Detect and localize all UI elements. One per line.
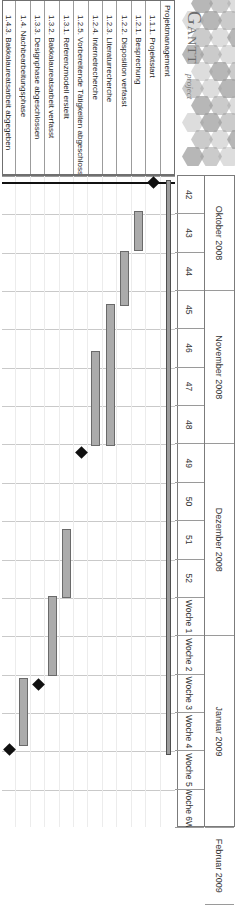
task-bar[interactable] <box>48 596 57 677</box>
task-name-label: 1.4. Nachbearbeitungsphase <box>19 1 28 117</box>
timeline-week-48: 48 <box>175 406 204 444</box>
task-name-label: Projektmanagement <box>163 1 172 77</box>
timeline-week-52: 52 <box>175 560 204 598</box>
task-name-label: 1.3.2. Bakkalaureatsarbeit verfasst <box>47 1 56 138</box>
grid-line-vertical <box>2 751 175 752</box>
task-bar[interactable] <box>19 678 28 745</box>
grid-line-vertical <box>2 790 175 791</box>
grid-line-horizontal <box>59 176 60 827</box>
summary-bar[interactable] <box>166 180 171 755</box>
table-row[interactable]: 1.1.1. Projektstart <box>145 1 159 174</box>
timeline-week-woche-5: Woche 5 <box>175 751 204 789</box>
task-bar[interactable] <box>134 211 143 251</box>
table-row[interactable]: Projektmanagement <box>160 1 174 174</box>
task-bar[interactable] <box>91 351 100 447</box>
task-name-label: 1.1.1. Projektstart <box>148 1 157 78</box>
timeline-header: Oktober 2008November 2008Dezember 2008Ja… <box>177 175 235 827</box>
table-row[interactable]: 1.3.2. Bakkalaureatsarbeit verfasst <box>44 1 58 174</box>
grid-line-vertical <box>2 483 175 484</box>
timeline-week-46: 46 <box>175 329 204 367</box>
task-name-label: 1.3.3. Designphase abgeschlossen <box>33 1 42 140</box>
grid-line-horizontal <box>145 176 146 827</box>
task-name-label: 1.2.4. Internetrecherche <box>91 1 100 100</box>
timeline-week-50: 50 <box>175 483 204 521</box>
task-name-label: 1.2.3. Literaturrecherche <box>105 1 114 102</box>
timeline-week-woche-4: Woche 4 <box>175 713 204 751</box>
grid-line-horizontal <box>160 176 161 827</box>
logo-wordmark: Gantt <box>183 11 205 64</box>
timeline-week-49: 49 <box>175 444 204 482</box>
grid-line-vertical <box>2 291 175 292</box>
timeline-week-43: 43 <box>175 214 204 252</box>
table-row[interactable]: 1.4.3. Bakkalaureatsarbeit abgegeben <box>1 1 15 174</box>
table-row[interactable]: 1.2.4. Internetrecherche <box>88 1 102 174</box>
task-name-label: 1.3.1. Referenzmodell erstellt <box>62 1 71 119</box>
grid-line-vertical <box>2 329 175 330</box>
task-bar[interactable] <box>106 304 115 446</box>
grid-line-horizontal <box>116 176 117 827</box>
task-bar[interactable] <box>120 251 129 307</box>
task-name-table[interactable]: Projektmanagement1.1.1. Projektstart1.2.… <box>2 0 175 175</box>
grid-line-horizontal <box>30 176 31 827</box>
grid-line-vertical <box>2 368 175 369</box>
grid-line-horizontal <box>15 176 16 827</box>
timeline-week-44: 44 <box>175 253 204 291</box>
timeline-month-1: Oktober 2008 <box>205 176 234 291</box>
table-row[interactable]: 1.2.1. Besprechung <box>131 1 145 174</box>
logo-subtitle: project <box>185 74 195 99</box>
table-row[interactable]: 1.2.5. Vorbereitende Tätigkeiten abgesch… <box>73 1 87 174</box>
milestone-marker[interactable] <box>32 678 45 691</box>
task-name-label: 1.2.2. Disposition verfasst <box>120 1 129 107</box>
table-row[interactable]: 1.2.2. Disposition verfasst <box>116 1 130 174</box>
grid-line-vertical <box>2 214 175 215</box>
timeline-month-5: Februar 2009 <box>205 828 234 905</box>
table-row[interactable]: 1.4. Nachbearbeitungsphase <box>15 1 29 174</box>
grid-line-horizontal <box>88 176 89 827</box>
grid-line-horizontal <box>44 176 45 827</box>
grid-line-vertical <box>2 636 175 637</box>
task-name-label: 1.4.3. Bakkalaureatsarbeit abgegeben <box>4 1 13 150</box>
timeline-week-row: 4243444546474849505152Woche 1Woche 2Woch… <box>175 176 205 826</box>
ganttproject-logo: Gantt project <box>177 0 235 175</box>
timeline-week-45: 45 <box>175 291 204 329</box>
timeline-week-51: 51 <box>175 521 204 559</box>
table-row[interactable]: 1.3.1. Referenzmodell erstellt <box>59 1 73 174</box>
timeline-month-row: Oktober 2008November 2008Dezember 2008Ja… <box>205 176 234 826</box>
grid-line-vertical <box>2 253 175 254</box>
milestone-marker[interactable] <box>147 176 160 189</box>
milestone-marker[interactable] <box>75 446 88 459</box>
timeline-week-woche-1: Woche 1 <box>175 598 204 636</box>
timeline-month-4: Januar 2009 <box>205 636 234 828</box>
grid-line-vertical <box>2 444 175 445</box>
grid-line-vertical <box>2 406 175 407</box>
task-name-label: 1.2.1. Besprechung <box>134 1 143 84</box>
grid-line-horizontal <box>73 176 74 827</box>
timeline-week-42: 42 <box>175 176 204 214</box>
grid-line-vertical <box>2 560 175 561</box>
timeline-month-3: Dezember 2008 <box>205 444 234 636</box>
timeline-week-woche-6w: Woche 6W <box>175 790 204 828</box>
timeline-month-2: November 2008 <box>205 291 234 444</box>
milestone-marker[interactable] <box>3 744 16 757</box>
table-row[interactable]: 1.3.3. Designphase abgeschlossen <box>30 1 44 174</box>
timeline-week-woche-3: Woche 3 <box>175 675 204 713</box>
timeline-week-woche-2: Woche 2 <box>175 636 204 674</box>
table-row[interactable]: 1.2.3. Literaturrecherche <box>102 1 116 174</box>
grid-line-horizontal <box>131 176 132 827</box>
gantt-chart-area[interactable] <box>2 175 175 827</box>
grid-line-vertical <box>2 675 175 676</box>
task-name-label: 1.2.5. Vorbereitende Tätigkeiten abgesch… <box>76 1 85 174</box>
grid-line-vertical <box>2 176 175 177</box>
grid-line-vertical <box>2 521 175 522</box>
task-bar[interactable] <box>62 529 71 598</box>
grid-line-vertical <box>2 598 175 599</box>
timeline-week-47: 47 <box>175 368 204 406</box>
grid-line-horizontal <box>102 176 103 827</box>
